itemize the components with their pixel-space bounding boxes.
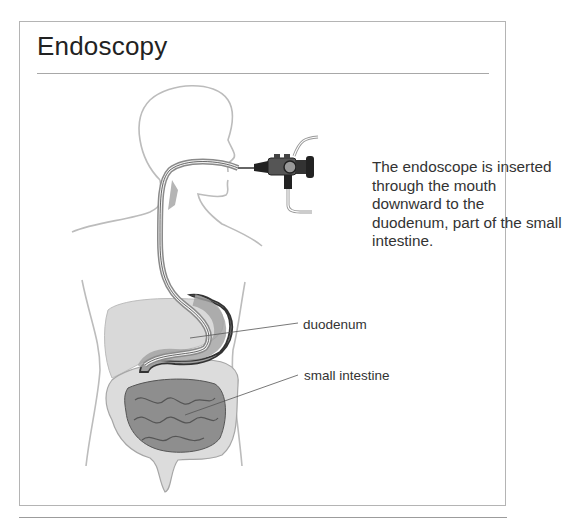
endoscope-device bbox=[238, 137, 318, 212]
endoscopy-illustration bbox=[0, 0, 565, 524]
label-small-intestine: small intestine bbox=[304, 368, 390, 383]
bottom-divider bbox=[19, 517, 507, 518]
figure-caption: The endoscope is inserted through the mo… bbox=[372, 158, 562, 251]
pharynx bbox=[168, 180, 178, 210]
label-duodenum: duodenum bbox=[303, 317, 367, 332]
